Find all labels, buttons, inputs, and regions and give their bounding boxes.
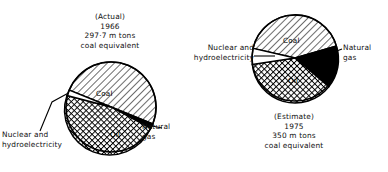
- annotation-natural-gas-right-line-2: gas: [343, 53, 371, 63]
- chart-right-title-line-4: coal equivalent: [236, 141, 352, 151]
- annotation-natural-gas-left-line-2: gas: [142, 132, 170, 142]
- annotation-nuclear-hydro-right-line-2: hydroelectricity: [184, 53, 254, 63]
- pie-chart-right: [252, 15, 342, 103]
- chart-left-title: (Actual) 1966 297·7 m tons coal equivale…: [52, 12, 168, 50]
- chart-right-title-line-3: 350 m tons: [236, 131, 352, 141]
- chart-right-title: (Estimate) 1975 350 m tons coal equivale…: [236, 112, 352, 150]
- annotation-nuclear-hydro-left-line-2: hydroelectricity: [2, 140, 62, 150]
- leader-nuclear-hydro-left: [40, 94, 68, 132]
- annotation-nuclear-hydro-right-line-1: Nuclear and: [184, 43, 254, 53]
- annotation-nuclear-hydro-right: Nuclear and hydroelectricity: [184, 43, 254, 62]
- slice-label-oil-right: Oil: [288, 76, 298, 85]
- chart-right-title-line-1: (Estimate): [236, 112, 352, 122]
- chart-left-title-line-4: coal equivalent: [52, 41, 168, 51]
- energy-consumption-pie-figure: (Actual) 1966 297·7 m tons coal equivale…: [0, 0, 388, 172]
- annotation-nuclear-hydro-left: Nuclear and hydroelectricity: [2, 130, 62, 149]
- chart-left-title-line-2: 1966: [52, 22, 168, 32]
- annotation-natural-gas-left: Natural gas: [142, 122, 170, 141]
- slice-label-coal-left: Coal: [96, 89, 113, 98]
- chart-right-title-line-2: 1975: [236, 122, 352, 132]
- slice-label-oil-left: Oil: [110, 130, 120, 139]
- slice-label-coal-right: Coal: [283, 36, 300, 45]
- annotation-nuclear-hydro-left-line-1: Nuclear and: [2, 130, 62, 140]
- annotation-natural-gas-right: Natural gas: [343, 43, 371, 62]
- chart-left-title-line-1: (Actual): [52, 12, 168, 22]
- chart-left-title-line-3: 297·7 m tons: [52, 31, 168, 41]
- annotation-natural-gas-right-line-1: Natural: [343, 43, 371, 53]
- annotation-natural-gas-left-line-1: Natural: [142, 122, 170, 132]
